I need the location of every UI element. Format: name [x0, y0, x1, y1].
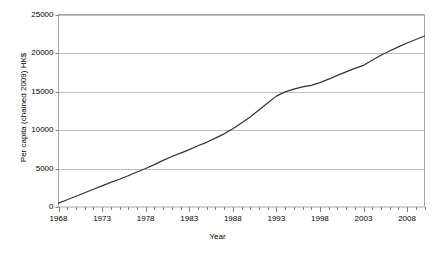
x-axis-tick-label: 1983	[166, 213, 212, 224]
x-axis-tick-label: 2008	[384, 213, 430, 224]
x-axis-tick-label: 1978	[123, 213, 169, 224]
x-axis-tick-label: 2003	[341, 213, 387, 224]
plot-border	[59, 15, 425, 208]
x-axis-title: Year	[0, 232, 435, 241]
chart-container: 0500010000150002000025000 19681973197819…	[0, 0, 435, 255]
x-axis-tick-label: 1973	[79, 213, 125, 224]
y-axis-tick-label: 25000	[8, 10, 54, 20]
y-axis-tick-label: 5000	[8, 164, 54, 174]
y-axis-tick-label: 20000	[8, 48, 54, 58]
y-axis-tick-label: 10000	[8, 125, 54, 135]
x-axis-tick-label: 1968	[36, 213, 82, 224]
x-axis-tick-label: 1988	[210, 213, 256, 224]
y-axis-tick-label: 0	[8, 202, 54, 212]
y-axis-tick-label: 15000	[8, 87, 54, 97]
x-axis-ticks	[60, 207, 426, 212]
y-axis-title: Per capita (chained 2009) HK$	[19, 32, 28, 184]
x-axis-tick-label: 1993	[253, 213, 299, 224]
x-axis-tick-label: 1998	[297, 213, 343, 224]
